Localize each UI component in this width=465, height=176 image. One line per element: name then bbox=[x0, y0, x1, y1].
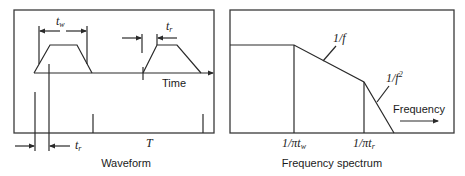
spectrum-panel: 1/f 1/f2 Frequency 1/πtw 1/πtr Frequency… bbox=[230, 10, 454, 169]
slope1-leader bbox=[323, 46, 336, 61]
slope1-label: 1/f bbox=[333, 31, 347, 45]
frequency-axis-label: Frequency bbox=[393, 103, 445, 115]
waveform-caption: Waveform bbox=[101, 157, 151, 169]
pulse-1 bbox=[34, 45, 92, 73]
pulse-waveform-and-spectrum-diagram: Time tw tr tr T Waveform bbox=[0, 0, 465, 176]
break-1-label: 1/πtw bbox=[282, 136, 307, 151]
period-label: T bbox=[146, 136, 154, 150]
tw-label: tw bbox=[56, 14, 65, 29]
waveform-panel: Time tw tr tr T Waveform bbox=[14, 10, 214, 169]
slope2-leader bbox=[377, 86, 389, 102]
time-axis-label: Time bbox=[162, 77, 186, 89]
spectrum-caption: Frequency spectrum bbox=[282, 157, 382, 169]
pulse-2 bbox=[143, 45, 201, 73]
slope2-label: 1/f2 bbox=[386, 70, 403, 85]
tr-top-label: tr bbox=[166, 19, 173, 34]
tr-bottom-label: tr bbox=[75, 138, 82, 153]
spectrum-envelope bbox=[230, 45, 394, 133]
break-2-label: 1/πtr bbox=[353, 136, 376, 151]
waveform-frame bbox=[14, 10, 214, 133]
